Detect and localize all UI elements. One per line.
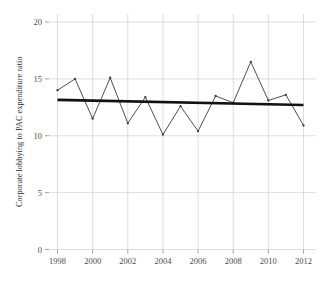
y-axis-label: Corporate lobbying to PAC expenditure ra… (15, 56, 24, 207)
data-point-marker (214, 95, 216, 97)
y-tick-label: 20 (34, 17, 43, 27)
x-tick-label: 2008 (225, 256, 242, 266)
data-point-marker (285, 94, 287, 96)
chart-figure: 05101520 1998200020022004200620082010201… (0, 0, 325, 283)
data-point-marker (162, 133, 164, 135)
x-tick-label: 2012 (295, 256, 312, 266)
x-tick-label: 2002 (119, 256, 136, 266)
data-point-marker (91, 118, 93, 120)
x-tick-label: 2004 (154, 256, 172, 266)
y-tick-label: 5 (38, 188, 42, 198)
data-point-marker (56, 89, 58, 91)
y-tick-label: 0 (38, 245, 42, 255)
line-chart: 05101520 1998200020022004200620082010201… (0, 0, 325, 283)
data-point-marker (127, 122, 129, 124)
x-tick-label: 2010 (260, 256, 277, 266)
data-point-marker (197, 130, 199, 132)
data-point-marker (74, 78, 76, 80)
x-tick-label: 1998 (49, 256, 66, 266)
x-tick-label: 2000 (84, 256, 101, 266)
chart-background (0, 0, 325, 283)
x-tick-label: 2006 (190, 256, 207, 266)
y-tick-label: 10 (34, 131, 43, 141)
data-point-marker (179, 105, 181, 107)
data-point-marker (109, 77, 111, 79)
y-tick-label: 15 (34, 74, 43, 84)
data-point-marker (302, 124, 304, 126)
data-point-marker (250, 61, 252, 63)
data-point-marker (267, 99, 269, 101)
data-point-marker (144, 96, 146, 98)
